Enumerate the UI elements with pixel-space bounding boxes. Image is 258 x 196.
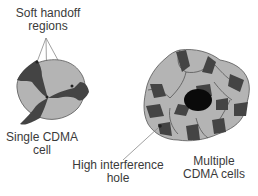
- interference-label-line2: hole: [68, 172, 168, 185]
- soft-handoff-label: Soft handoff regions: [8, 7, 88, 33]
- single-cell-label-line2: cell: [4, 144, 80, 157]
- interference-label: High interference hole: [68, 159, 168, 185]
- single-cdma-cell: [17, 60, 89, 125]
- single-cell-label: Single CDMA cell: [4, 131, 80, 157]
- interference-hole: [184, 89, 212, 111]
- multiple-cells-label-line2: CDMA cells: [174, 168, 254, 181]
- soft-handoff-label-line2: regions: [8, 20, 88, 33]
- multiple-cells-label: Multiple CDMA cells: [174, 155, 254, 181]
- interference-leader-line: [123, 128, 158, 160]
